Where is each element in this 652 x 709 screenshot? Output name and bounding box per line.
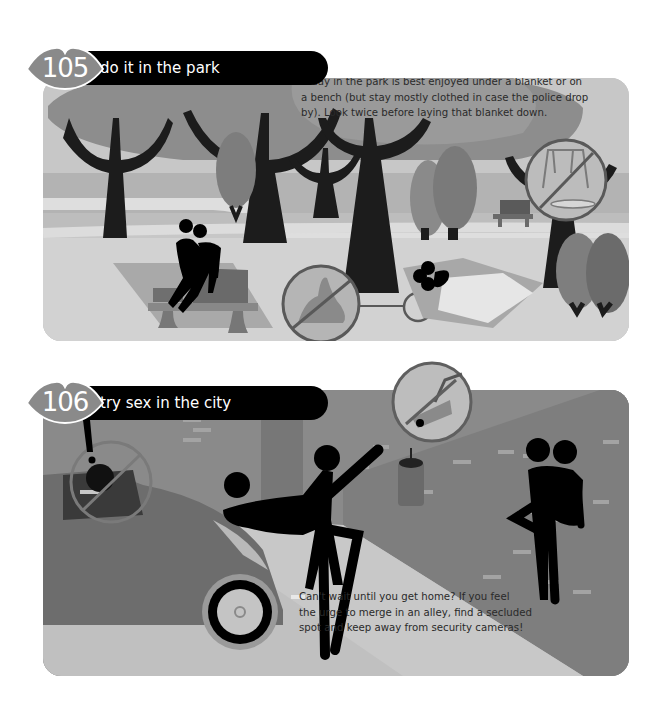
park-title-bar: do it in the park bbox=[75, 51, 328, 85]
security-camera-icon bbox=[390, 360, 474, 444]
city-title-bar: try sex in the city bbox=[75, 386, 328, 420]
park-caption-line-3: by). Look twice before laying that blank… bbox=[301, 105, 629, 121]
park-caption-line-1: A day in the park is best enjoyed under … bbox=[301, 78, 629, 90]
entry-number: 106 bbox=[25, 379, 105, 425]
city-caption: Can't wait until you get home? If you fe… bbox=[299, 589, 599, 636]
entry-number-badge-105: 105 bbox=[25, 45, 105, 91]
park-caption-line-2: a bench (but stay mostly clothed in case… bbox=[301, 90, 629, 106]
city-title: try sex in the city bbox=[100, 386, 231, 420]
park-caption: A day in the park is best enjoyed under … bbox=[301, 78, 629, 121]
city-caption-line-2: the urge to merge in an alley, find a se… bbox=[299, 605, 599, 621]
no-playground-icon bbox=[526, 140, 606, 220]
city-illustration-panel: Can't wait until you get home? If you fe… bbox=[43, 390, 629, 676]
city-caption-line-3: spot and keep away from security cameras… bbox=[299, 620, 599, 636]
city-caption-line-1: Can't wait until you get home? If you fe… bbox=[299, 589, 599, 605]
entry-number-badge-106: 106 bbox=[25, 379, 105, 425]
park-illustration-panel: A day in the park is best enjoyed under … bbox=[43, 78, 629, 341]
entry-number: 105 bbox=[25, 45, 105, 91]
park-title: do it in the park bbox=[100, 51, 220, 85]
